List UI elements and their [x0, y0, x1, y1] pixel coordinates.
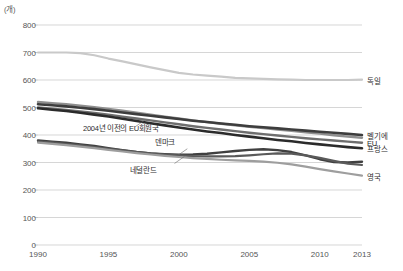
y-tick-label-600: 600 — [6, 76, 36, 85]
y-tick-label-400: 400 — [6, 131, 36, 140]
x-tick-label-2013: 2013 — [353, 250, 371, 259]
chart-container: (개) 0100200300400500600700800 1990199520… — [0, 0, 403, 271]
line-chart-plot — [0, 0, 403, 271]
y-tick-label-800: 800 — [6, 21, 36, 30]
y-tick-label-500: 500 — [6, 103, 36, 112]
x-tick-label-2000: 2000 — [170, 250, 188, 259]
series-label-0: 독일 — [367, 75, 381, 86]
series-line-7 — [38, 143, 362, 176]
y-tick-label-300: 300 — [6, 158, 36, 167]
series-label-6: 네덜란드 — [130, 164, 157, 175]
x-tick-label-1990: 1990 — [29, 250, 47, 259]
series-label-1: 2004년 이전의 EU회원국 — [83, 121, 159, 132]
y-tick-label-700: 700 — [6, 48, 36, 57]
x-tick-label-2010: 2010 — [311, 250, 329, 259]
x-tick-label-2005: 2005 — [240, 250, 258, 259]
x-tick-label-1995: 1995 — [100, 250, 118, 259]
series-label-5: 덴마크 — [155, 136, 175, 147]
y-tick-label-100: 100 — [6, 213, 36, 222]
y-tick-label-0: 0 — [6, 241, 36, 250]
series-label-4: 프랑스 — [367, 143, 387, 154]
series-label-7: 영국 — [367, 170, 381, 181]
y-tick-label-200: 200 — [6, 186, 36, 195]
series-line-0 — [38, 53, 362, 81]
